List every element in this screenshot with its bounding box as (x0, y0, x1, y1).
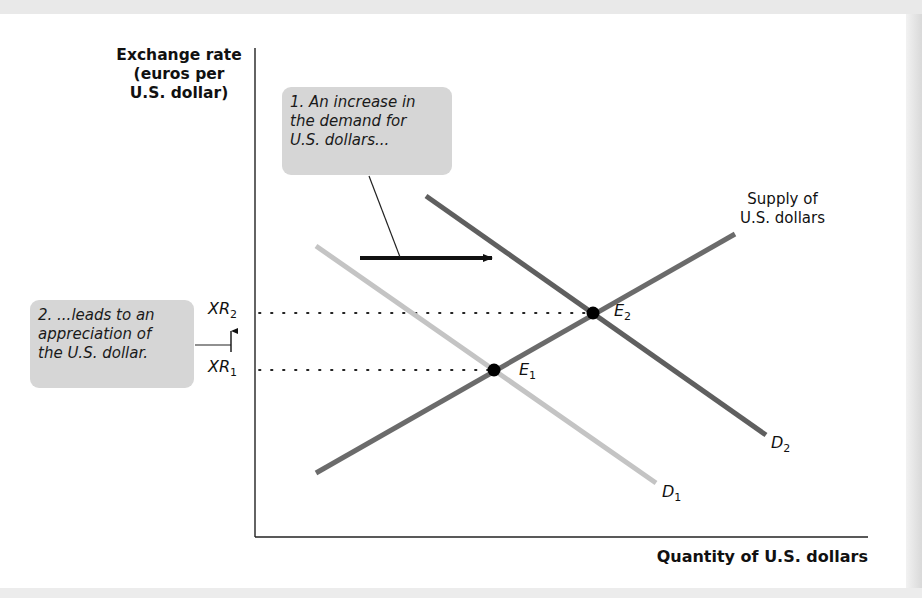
label-e2: E2 (614, 301, 631, 323)
supply-curve (316, 234, 735, 473)
supply-curve-label: Supply of U.S. dollars (740, 190, 825, 228)
callout-1-line-1: 1. An increase in (290, 93, 444, 112)
label-e2-main: E (614, 301, 624, 320)
label-d1-sub: 1 (674, 491, 681, 504)
label-e1-sub: 1 (529, 369, 536, 382)
label-d2: D2 (771, 433, 790, 455)
tick-xr2-main: XR (208, 299, 230, 318)
equilibrium-point-e1 (488, 364, 501, 377)
label-e2-sub: 2 (624, 310, 631, 323)
tick-xr2-sub: 2 (230, 308, 237, 321)
y-axis-label: Exchange rate (euros per U.S. dollar) (110, 46, 248, 103)
callout-2-line-1: 2. ...leads to an (38, 306, 186, 325)
label-e1-main: E (519, 360, 529, 379)
equilibrium-point-e2 (587, 307, 600, 320)
tick-label-xr2: XR2 (208, 299, 237, 321)
callout-2-line-3: the U.S. dollar. (38, 344, 186, 363)
label-d1-main: D (662, 482, 674, 501)
y-axis-label-line-1: Exchange rate (110, 46, 248, 65)
callout-2-line-2: appreciation of (38, 325, 186, 344)
tick-xr1-main: XR (208, 357, 230, 376)
callout-appreciation: 2. ...leads to an appreciation of the U.… (30, 300, 194, 388)
supply-label-line-1: Supply of (740, 190, 825, 209)
tick-xr1-sub: 1 (230, 366, 237, 379)
callout-demand-increase: 1. An increase in the demand for U.S. do… (282, 87, 452, 175)
label-d2-sub: 2 (783, 442, 790, 455)
callout-1-line-3: U.S. dollars... (290, 131, 444, 150)
supply-label-line-2: U.S. dollars (740, 209, 825, 228)
demand-curve-d1 (316, 246, 656, 483)
callout-1-line-2: the demand for (290, 112, 444, 131)
label-e1: E1 (519, 360, 536, 382)
y-axis-label-line-3: U.S. dollar) (110, 84, 248, 103)
x-axis-label: Quantity of U.S. dollars (560, 547, 868, 566)
label-d1: D1 (662, 482, 681, 504)
tick-label-xr1: XR1 (208, 357, 237, 379)
label-d2-main: D (771, 433, 783, 452)
y-axis-label-line-2: (euros per (110, 65, 248, 84)
callout-1-pointer (369, 176, 400, 257)
